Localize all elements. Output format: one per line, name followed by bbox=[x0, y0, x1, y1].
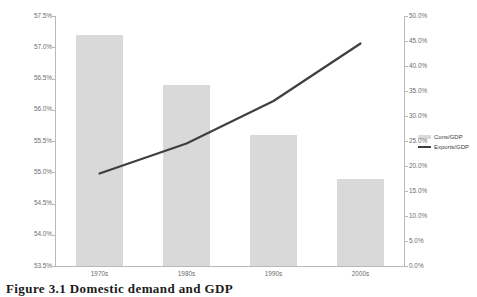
tick-mark bbox=[52, 204, 55, 205]
tick-mark bbox=[52, 172, 55, 173]
y-axis-left-tick: 56.0% bbox=[8, 106, 52, 112]
y-axis-right-tick: 10.0% bbox=[409, 213, 427, 219]
tick-mark bbox=[405, 241, 408, 242]
plot-area bbox=[56, 16, 404, 266]
y-axis-right-tick: 25.0% bbox=[409, 138, 427, 144]
tick-mark bbox=[52, 47, 55, 48]
legend-label: Exports/GDP bbox=[434, 144, 469, 150]
y-axis-left-tick: 57.0% bbox=[8, 44, 52, 50]
x-axis-tick: 1990s bbox=[265, 270, 282, 277]
y-axis-left-tick: 54.0% bbox=[8, 231, 52, 237]
y-axis-right-tick: 0.0% bbox=[409, 263, 424, 269]
x-axis bbox=[55, 266, 405, 267]
y-axis-left-tick: 56.5% bbox=[8, 75, 52, 81]
tick-mark bbox=[405, 216, 408, 217]
tick-mark bbox=[405, 41, 408, 42]
y-axis-right-tick: 30.0% bbox=[409, 113, 427, 119]
tick-mark bbox=[405, 166, 408, 167]
legend-swatch-line bbox=[418, 146, 431, 148]
x-axis-tick: 1980s bbox=[178, 270, 195, 277]
tick-mark bbox=[52, 266, 55, 267]
line-series-exports-gdp bbox=[56, 16, 404, 266]
tick-mark bbox=[52, 141, 55, 142]
y-axis-right-tick: 50.0% bbox=[409, 13, 427, 19]
tick-mark bbox=[405, 191, 408, 192]
y-axis-left-tick: 54.5% bbox=[8, 200, 52, 206]
y-axis-left-tick: 55.5% bbox=[8, 138, 52, 144]
x-axis-tick: 1970s bbox=[91, 270, 108, 277]
tick-mark bbox=[52, 79, 55, 80]
tick-mark bbox=[405, 116, 408, 117]
y-axis-right-tick: 45.0% bbox=[409, 38, 427, 44]
tick-mark bbox=[405, 16, 408, 17]
legend-label: Cons/GDP bbox=[434, 134, 463, 140]
figure-caption: Figure 3.1 Domestic demand and GDP bbox=[6, 281, 233, 297]
y-axis-left-tick: 53.5% bbox=[8, 263, 52, 269]
tick-mark bbox=[52, 16, 55, 17]
y-axis-left-labels: 53.5%54.0%54.5%55.0%55.5%56.0%56.5%57.0%… bbox=[0, 0, 52, 293]
x-axis-tick: 2000s bbox=[352, 270, 369, 277]
y-axis-right-tick: 20.0% bbox=[409, 163, 427, 169]
tick-mark bbox=[405, 66, 408, 67]
y-axis-right-tick: 5.0% bbox=[409, 238, 424, 244]
y-axis-left-tick: 57.5% bbox=[8, 13, 52, 19]
tick-mark bbox=[52, 235, 55, 236]
tick-mark bbox=[52, 110, 55, 111]
y-axis-right-tick: 40.0% bbox=[409, 63, 427, 69]
tick-mark bbox=[405, 91, 408, 92]
y-axis-right-tick: 35.0% bbox=[409, 88, 427, 94]
tick-mark bbox=[405, 141, 408, 142]
y-axis-left-tick: 55.0% bbox=[8, 169, 52, 175]
y-axis-right-tick: 15.0% bbox=[409, 188, 427, 194]
tick-mark bbox=[405, 266, 408, 267]
